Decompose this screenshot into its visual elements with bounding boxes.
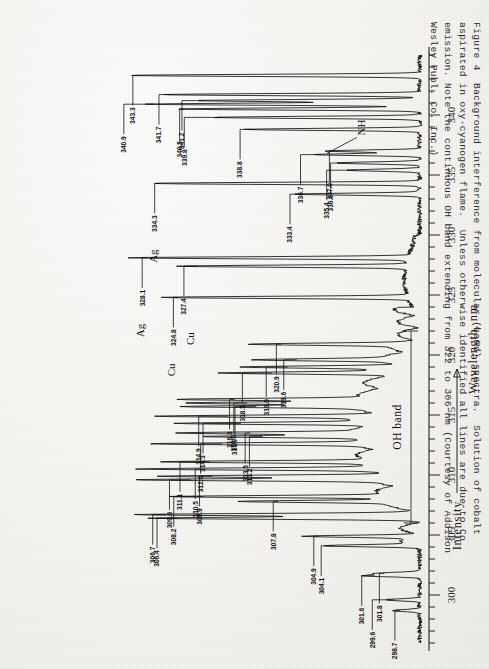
peak-label-312.6: 312.6 bbox=[197, 475, 204, 492]
peak-label-309.6: 309.6 bbox=[166, 511, 173, 528]
peak-label-320.9: 320.9 bbox=[273, 376, 280, 393]
peak-label-334.3: 334.3 bbox=[151, 215, 158, 232]
peak-label-304.1: 304.1 bbox=[318, 577, 325, 594]
peak-label-313.2: 313.2 bbox=[246, 468, 253, 485]
peak-label-327.4: 327.4 bbox=[180, 298, 187, 315]
peak-label-324.8: 324.8 bbox=[170, 329, 177, 346]
peak-label-298.7: 298.7 bbox=[391, 642, 398, 659]
peak-label-343.3: 343.3 bbox=[129, 107, 136, 124]
peak-label-319.6: 319.6 bbox=[280, 391, 287, 408]
nh-leader-line bbox=[327, 137, 357, 153]
peak-label-318.5: 318.5 bbox=[239, 405, 246, 422]
figure-rotated-180: 300305310315320325330335340 343.3341.734… bbox=[0, 0, 489, 669]
peak-label-328.1: 328.1 bbox=[139, 289, 146, 306]
figure-caption: Figure 4 Background interference from mo… bbox=[425, 22, 483, 647]
peak-label-338.8: 338.8 bbox=[236, 161, 243, 178]
peak-label-301.6: 301.6 bbox=[358, 607, 365, 624]
nh-annotation: NH bbox=[327, 119, 367, 153]
peak-label-309.9: 309.9 bbox=[196, 508, 203, 525]
peak-label-333.4: 333.4 bbox=[286, 226, 293, 243]
peak-label-319.0: 319.0 bbox=[263, 399, 270, 416]
peak-label-335.4: 335.4 bbox=[323, 202, 330, 219]
caption-block: Figure 4 Background interference from mo… bbox=[400, 0, 489, 669]
spectrum-trace bbox=[128, 55, 422, 643]
peak-label-311.1: 311.1 bbox=[176, 493, 183, 509]
peak-label-301.8: 301.8 bbox=[376, 605, 383, 622]
peak-label-315.7: 315.7 bbox=[231, 438, 238, 455]
peak-label-306.4: 306.4 bbox=[153, 550, 160, 567]
element-label-cu-327.4: Cu bbox=[184, 332, 196, 345]
peak-label-307.8: 307.8 bbox=[270, 533, 277, 550]
peak-label-304.9: 304.9 bbox=[310, 568, 317, 585]
peak-label-340.9: 340.9 bbox=[120, 136, 127, 153]
peak-label-336.7: 336.7 bbox=[297, 186, 304, 203]
peak-label-339.8: 339.8 bbox=[181, 149, 188, 166]
element-label-ag-334.3: Ag bbox=[147, 249, 159, 263]
nh-label: NH bbox=[355, 119, 367, 135]
peak-label-308.2: 308.2 bbox=[170, 528, 177, 545]
scanned-page: 300305310315320325330335340 343.3341.734… bbox=[0, 0, 489, 669]
element-label-cu-324.8: Cu bbox=[165, 363, 177, 376]
peak-label-299.6: 299.6 bbox=[369, 631, 376, 648]
element-label-ag-328.1: Ag bbox=[134, 323, 146, 337]
peak-label-341.7: 341.7 bbox=[155, 126, 162, 143]
